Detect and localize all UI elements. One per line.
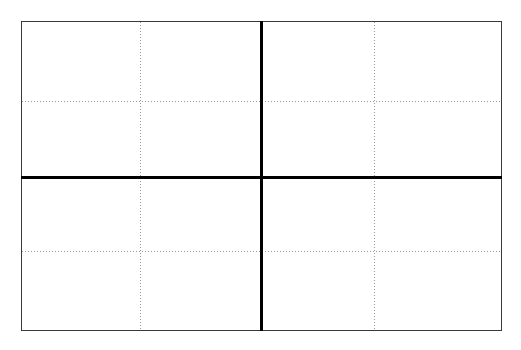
plot-frame [21, 21, 502, 331]
figure-canvas [0, 0, 521, 350]
axis-horizontal [21, 176, 502, 179]
